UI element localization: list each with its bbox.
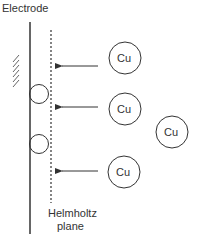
double-layer-diagram xyxy=(0,0,198,234)
plane-label-line2: plane xyxy=(57,220,84,232)
ion-label: Cu xyxy=(117,103,131,115)
plane-label-line1: Helmholtz xyxy=(48,207,97,219)
hatch-marks xyxy=(13,55,19,87)
adsorbed-ion xyxy=(30,135,49,154)
ion-label: Cu xyxy=(164,126,178,138)
ion-label: Cu xyxy=(117,52,131,64)
ion-label: Cu xyxy=(116,166,130,178)
adsorbed-ion xyxy=(30,85,49,104)
